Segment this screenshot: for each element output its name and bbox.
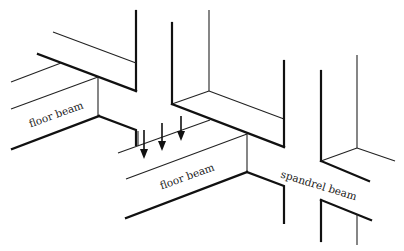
spandrel-beam-label: spandrel beam — [280, 168, 359, 203]
right-column-lower — [321, 200, 371, 245]
left-floor-beam: floor beam — [11, 63, 138, 149]
arrow-down-icon — [158, 123, 166, 151]
upper-left-column — [38, 11, 136, 91]
load-arrows — [140, 116, 185, 159]
arrow-down-icon — [177, 116, 185, 141]
center-column — [172, 10, 284, 147]
center-floor-beam: floor beam — [118, 120, 284, 223]
right-column-upper — [321, 55, 395, 181]
floor-framing-diagram: floor beam floor beam — [0, 0, 404, 251]
